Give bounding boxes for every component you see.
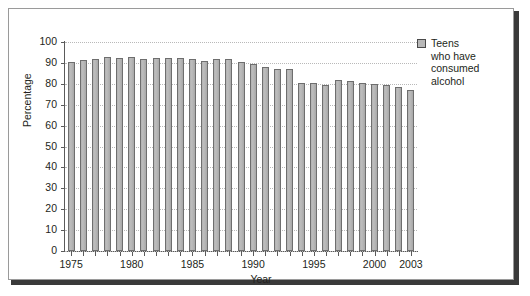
bar-1986 [201,61,208,251]
bar-1978 [104,57,111,251]
bar-1995 [310,83,317,251]
bar-1976 [80,60,87,251]
y-tick-10 [61,230,65,231]
x-tick-1999 [362,252,363,256]
x-tick-1987 [217,252,218,256]
y-tick-90 [61,63,65,64]
y-tick-label-30: 30 [17,182,57,192]
bar-1999 [359,83,366,251]
bar-1998 [347,81,354,251]
x-tick-1994 [302,252,303,256]
x-tick-1977 [95,252,96,256]
bar-2000 [371,84,378,251]
x-tick-2002 [399,252,400,256]
y-tick-label-10: 10 [17,224,57,234]
bar-1984 [177,58,184,251]
y-tick-60 [61,126,65,127]
x-tick-1986 [205,252,206,256]
bar-1983 [165,58,172,251]
y-tick-label-90: 90 [17,57,57,67]
y-tick-30 [61,188,65,189]
bar-1977 [92,59,99,251]
y-tick-label-40: 40 [17,161,57,171]
x-tick-label-1985: 1985 [181,258,204,270]
legend-swatch-teens-alcohol [417,39,426,48]
y-tick-50 [61,147,65,148]
y-tick-70 [61,105,65,106]
x-tick-1990 [253,252,254,256]
x-tick-label-2003: 2003 [399,258,422,270]
chart-legend: Teenswho haveconsumedalcohol [417,37,501,87]
x-tick-2003 [411,252,412,256]
gridline-100 [65,42,417,43]
x-tick-label-1980: 1980 [120,258,143,270]
y-tick-20 [61,209,65,210]
bar-1979 [116,58,123,251]
bar-1997 [335,80,342,251]
plot-area [65,42,417,251]
x-tick-1988 [229,252,230,256]
y-axis-title: Percentage [21,73,33,127]
y-tick-label-100: 100 [17,36,57,46]
bar-1980 [128,57,135,251]
x-tick-2000 [375,252,376,256]
x-tick-label-1990: 1990 [241,258,264,270]
legend-label-teens-alcohol: Teenswho haveconsumedalcohol [431,37,501,87]
bar-1989 [238,62,245,251]
x-tick-1976 [83,252,84,256]
x-tick-label-1995: 1995 [302,258,325,270]
x-tick-1978 [107,252,108,256]
bar-1996 [322,85,329,251]
x-tick-1995 [314,252,315,256]
bar-1988 [225,59,232,251]
bar-1990 [250,64,257,251]
x-tick-1984 [180,252,181,256]
bar-1994 [298,83,305,251]
x-tick-1979 [120,252,121,256]
x-tick-label-2000: 2000 [363,258,386,270]
bar-1992 [274,69,281,251]
bar-1985 [189,59,196,251]
x-tick-2001 [387,252,388,256]
y-tick-label-0: 0 [17,245,57,255]
bar-1987 [213,59,220,251]
x-tick-1998 [350,252,351,256]
y-tick-40 [61,167,65,168]
x-tick-1985 [192,252,193,256]
y-tick-0 [61,251,65,252]
x-tick-1975 [71,252,72,256]
x-tick-1981 [144,252,145,256]
x-tick-1996 [326,252,327,256]
bar-1981 [140,59,147,251]
bar-1975 [68,62,75,251]
x-tick-1983 [168,252,169,256]
bar-1991 [262,67,269,251]
bar-1993 [286,69,293,251]
x-tick-label-1975: 1975 [59,258,82,270]
y-tick-label-20: 20 [17,203,57,213]
bar-2002 [395,87,402,251]
y-tick-100 [61,42,65,43]
bar-2003 [407,90,414,251]
chart-figure: 0102030405060708090100 19751980198519901… [8,8,514,280]
x-tick-1991 [265,252,266,256]
x-tick-1993 [290,252,291,256]
x-tick-1982 [156,252,157,256]
x-tick-1980 [132,252,133,256]
x-tick-1989 [241,252,242,256]
x-axis-title: Year [9,273,513,285]
x-tick-1992 [277,252,278,256]
bar-2001 [383,85,390,251]
bar-1982 [153,58,160,251]
y-tick-80 [61,84,65,85]
y-tick-label-50: 50 [17,141,57,151]
x-tick-1997 [338,252,339,256]
